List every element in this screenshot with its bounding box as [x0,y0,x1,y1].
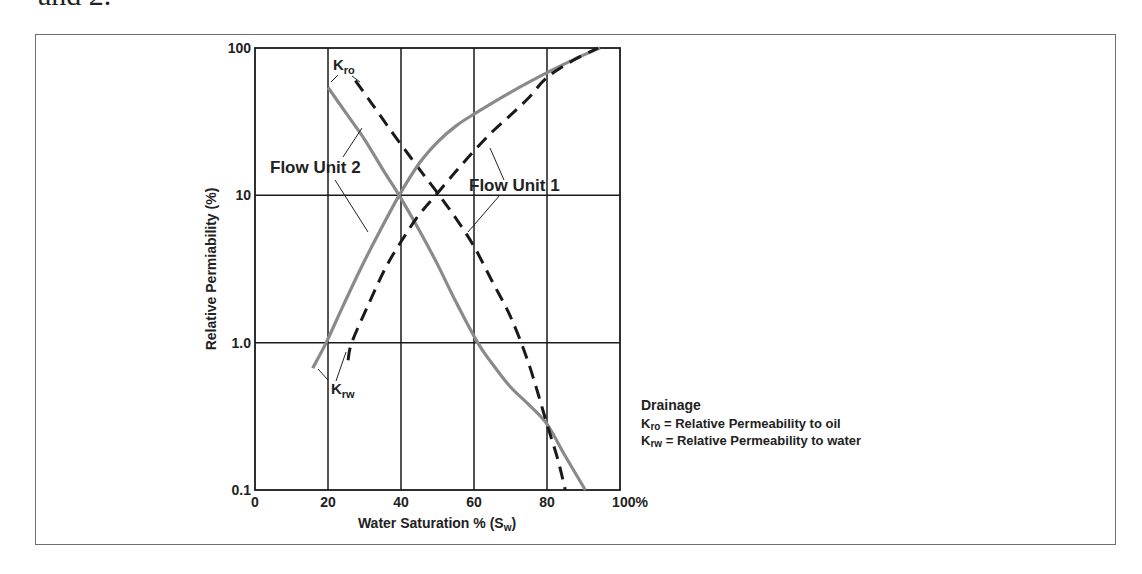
annotation-kro: Kro [333,56,355,76]
annotation-flow-unit-1: Flow Unit 1 [469,176,560,195]
relative-permeability-chart: 020406080100%0.11.010100 Flow Unit 2Flow… [0,0,1142,574]
x-tick-label: 0 [251,494,259,510]
x-tick-label: 20 [320,494,336,510]
curve-annotations: Flow Unit 2Flow Unit 1KroKrw [270,56,560,400]
flow-unit-2-krw-curve [313,48,600,368]
y-tick-label: 100 [228,40,252,56]
legend: Drainage Kro = Relative Permeability to … [641,398,861,451]
flow-unit-1-krw-curve [348,48,598,360]
plot-area-border [255,48,620,490]
legend-title: Drainage [641,398,861,412]
tick-labels: 020406080100%0.11.010100 [228,40,649,510]
curves [313,48,600,490]
x-tick-label: 80 [539,494,555,510]
x-tick-label: 40 [393,494,409,510]
grid-lines [255,48,620,490]
x-tick-label: 100% [612,494,648,510]
flow-unit-1-kro-curve [355,81,565,490]
y-axis-label: Relative Permiability (%) [203,188,219,351]
y-tick-label: 0.1 [232,482,252,498]
y-tick-label: 1.0 [232,335,252,351]
legend-entry-krw: Krw = Relative Permeability to water [641,434,861,451]
annotation-flow-unit-2: Flow Unit 2 [270,158,361,177]
y-tick-label: 10 [235,187,251,203]
legend-entry-kro: Kro = Relative Permeability to oil [641,417,861,434]
x-tick-label: 60 [466,494,482,510]
annotation-krw: Krw [331,380,355,400]
x-axis-label: Water Saturation % (Sw) [358,515,516,533]
